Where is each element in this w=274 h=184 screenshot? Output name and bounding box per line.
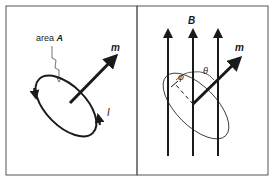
current-label: I bbox=[107, 107, 110, 118]
angle-theta-label: θ bbox=[203, 66, 208, 76]
moment-arrow-m bbox=[70, 56, 116, 103]
angle-phi-label: φ bbox=[178, 72, 184, 82]
loop-arrow-right-icon bbox=[98, 115, 100, 125]
right-panel: B m φ θ bbox=[152, 15, 244, 156]
moment-label-left: m bbox=[111, 42, 120, 53]
area-label: area A bbox=[36, 33, 63, 43]
moment-label-right: m bbox=[235, 42, 244, 53]
field-label-B: B bbox=[188, 15, 195, 26]
left-panel: area A m I bbox=[25, 33, 120, 147]
left-panel-frame bbox=[6, 6, 137, 175]
right-panel-frame bbox=[137, 6, 268, 175]
magnetic-moment-diagram: area A m I B m φ θ bbox=[0, 0, 274, 184]
dashed-reference-line bbox=[176, 85, 193, 104]
moment-arrow-m-right bbox=[193, 58, 240, 104]
tilted-loop bbox=[152, 62, 240, 150]
area-leader-line bbox=[52, 46, 59, 78]
